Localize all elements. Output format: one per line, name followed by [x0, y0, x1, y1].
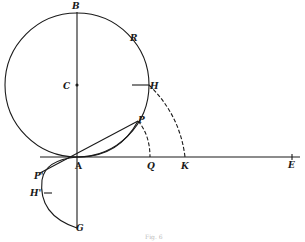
label-a: A	[75, 162, 82, 171]
label-e: E	[288, 161, 295, 170]
label-p: P	[138, 116, 145, 125]
geometry-figure: B R C H P A Q K E P' H' G Fig. 6	[0, 0, 305, 242]
label-b: B	[72, 2, 80, 11]
figure-drawing	[0, 0, 305, 242]
label-k: K	[181, 162, 189, 171]
chord-ap	[40, 121, 138, 173]
figure-caption: Fig. 6	[145, 233, 163, 240]
label-h-prime: H'	[30, 189, 41, 198]
label-g: G	[76, 224, 84, 233]
label-r: R	[130, 34, 137, 43]
label-q: Q	[147, 162, 155, 171]
label-c: C	[63, 82, 70, 91]
center-dot	[76, 84, 78, 86]
arc-p-q	[138, 121, 150, 157]
label-p-prime: P'	[34, 172, 44, 181]
arc-h-k	[149, 85, 185, 157]
label-h: H	[150, 82, 159, 91]
